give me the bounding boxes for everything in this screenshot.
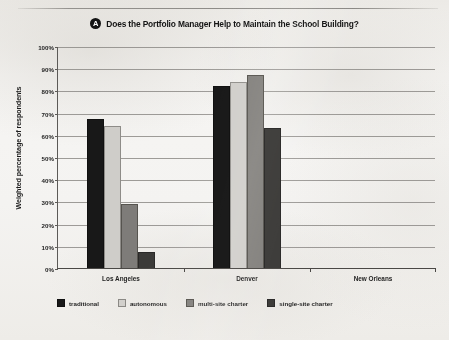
y-tick-label: 80% <box>42 88 54 95</box>
y-tick-label: 100% <box>38 44 54 51</box>
legend-label: single-site charter <box>279 300 332 307</box>
y-tick-label: 40% <box>42 177 54 184</box>
y-tick-label: 0% <box>45 266 54 273</box>
x-tick-mark <box>310 268 311 272</box>
legend-label: autonomous <box>130 300 167 307</box>
chart-legend: traditionalautonomousmulti-site charters… <box>57 299 333 307</box>
x-tick-mark <box>435 268 436 272</box>
bar-multi-site-charter <box>247 75 264 268</box>
legend-item-traditional: traditional <box>57 299 99 307</box>
legend-swatch <box>57 299 65 307</box>
legend-item-autonomous: autonomous <box>118 299 167 307</box>
legend-label: traditional <box>69 300 99 307</box>
bar-single-site-charter <box>264 128 281 268</box>
bar-traditional <box>213 86 230 268</box>
bar-single-site-charter <box>138 252 155 268</box>
x-category-label: Denver <box>236 275 258 282</box>
y-tick-label: 90% <box>42 66 54 73</box>
chart-title: Does the Portfolio Manager Help to Maint… <box>106 19 358 29</box>
y-tick-mark <box>55 269 58 270</box>
y-tick-label: 30% <box>42 199 54 206</box>
bar-group <box>184 47 310 268</box>
legend-swatch <box>267 299 275 307</box>
y-tick-label: 10% <box>42 243 54 250</box>
plot-area: 100%90%80%70%60%50%40%30%20%10%0% Los An… <box>57 47 435 269</box>
bar-autonomous <box>104 126 121 268</box>
panel-letter-badge: A <box>90 18 101 29</box>
bar-traditional <box>87 119 104 268</box>
bar-groups <box>58 47 435 268</box>
legend-item-single-site-charter: single-site charter <box>267 299 332 307</box>
y-tick-label: 50% <box>42 155 54 162</box>
bar-group <box>310 47 436 268</box>
legend-swatch <box>186 299 194 307</box>
bar-group <box>58 47 184 268</box>
bar-multi-site-charter <box>121 204 138 268</box>
y-tick-label: 60% <box>42 132 54 139</box>
legend-item-multi-site-charter: multi-site charter <box>186 299 248 307</box>
chart-title-row: A Does the Portfolio Manager Help to Mai… <box>0 18 449 29</box>
x-category-label: New Orleans <box>354 275 393 282</box>
legend-swatch <box>118 299 126 307</box>
bar-autonomous <box>230 82 247 268</box>
legend-label: multi-site charter <box>198 300 248 307</box>
x-tick-mark <box>184 268 185 272</box>
y-tick-label: 20% <box>42 221 54 228</box>
x-category-label: Los Angeles <box>102 275 140 282</box>
y-tick-label: 70% <box>42 110 54 117</box>
top-divider-rule <box>18 8 438 9</box>
y-axis-title: Weighted percentage of respondents <box>14 68 26 228</box>
